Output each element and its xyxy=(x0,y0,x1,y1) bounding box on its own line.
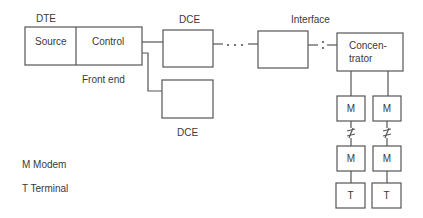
control-label: Control xyxy=(92,36,124,47)
ellipsis-dot xyxy=(241,44,243,46)
colon-dot xyxy=(322,47,324,49)
dce-top-label: DCE xyxy=(179,14,200,25)
legend-modem: M Modem xyxy=(22,159,66,170)
modem-left-1-label: M xyxy=(337,103,365,114)
concentrator-box xyxy=(337,33,403,71)
modem-right-1-label: M xyxy=(373,103,401,114)
dce-top-box xyxy=(163,30,213,67)
modem-right-2-label: M xyxy=(373,153,401,164)
modem-left-2-label: M xyxy=(337,153,365,164)
terminal-left-label: T xyxy=(336,190,365,201)
line-break-left-icon xyxy=(347,128,355,138)
line-break-right-icon xyxy=(383,128,391,138)
ellipsis-dot xyxy=(227,44,229,46)
dte-label: DTE xyxy=(36,13,56,24)
control-to-dce-bottom-line xyxy=(142,53,162,91)
legend-terminal: T Terminal xyxy=(22,183,68,194)
dce-bottom-box xyxy=(162,80,213,118)
terminal-right-label: T xyxy=(372,190,401,201)
dce-bottom-label: DCE xyxy=(177,127,198,138)
colon-dot xyxy=(322,41,324,43)
source-label: Source xyxy=(35,36,67,47)
concentrator-label-line2: trator xyxy=(349,53,372,64)
front-end-label: Front end xyxy=(82,74,125,85)
concentrator-label-line1: Concen- xyxy=(349,40,387,51)
interface-box xyxy=(258,31,308,68)
ellipsis-dot xyxy=(234,44,236,46)
interface-label: Interface xyxy=(291,14,330,25)
